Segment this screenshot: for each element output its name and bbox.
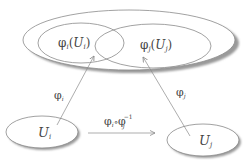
- image-i-label: φi(Ui): [58, 36, 90, 51]
- domain-i: Ui: [6, 116, 80, 150]
- manifold-transition-diagram: φi(Ui) φj(Uj) Ui Uj φi φj φi∘φj−1: [0, 0, 248, 162]
- domain-j: Uj: [167, 124, 241, 158]
- outer-region-ellipse: [23, 10, 235, 70]
- image-j-label: φj(Uj): [140, 38, 172, 53]
- outer-region: [23, 10, 239, 73]
- phi-i-label: φi: [54, 89, 64, 102]
- phi-j-label: φj: [176, 86, 186, 100]
- transition-label: φi∘φj−1: [104, 113, 132, 130]
